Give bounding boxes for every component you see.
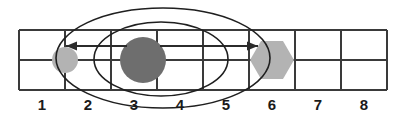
diagram-canvas: 12345678: [0, 0, 409, 118]
dark-circle-position-3: [120, 37, 166, 83]
right-arrow: [160, 42, 258, 51]
number-line-diagram: 12345678: [0, 0, 409, 118]
axis-label-2: 2: [84, 96, 92, 113]
axis-label-6: 6: [268, 96, 276, 113]
axis-label-5: 5: [222, 96, 230, 113]
axis-label-1: 1: [38, 96, 46, 113]
axis-label-4: 4: [176, 96, 185, 113]
axis-label-7: 7: [314, 96, 322, 113]
axis-label-8: 8: [360, 96, 368, 113]
axis-label-3: 3: [130, 96, 138, 113]
